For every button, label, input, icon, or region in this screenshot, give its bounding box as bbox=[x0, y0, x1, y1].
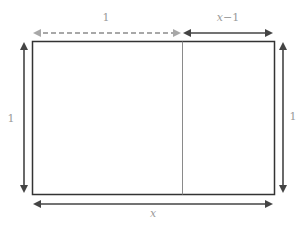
label-top-left-one: 1 bbox=[103, 11, 110, 24]
label-right-height: 1 bbox=[290, 110, 297, 123]
label-top-right-x-minus-one: x−1 bbox=[217, 11, 239, 24]
label-minus-one: −1 bbox=[223, 11, 239, 24]
outer-rectangle bbox=[33, 42, 275, 195]
diagram-canvas: 1 x−1 1 1 x bbox=[0, 0, 303, 225]
label-bottom-width: x bbox=[150, 207, 157, 220]
label-left-height: 1 bbox=[8, 112, 15, 125]
